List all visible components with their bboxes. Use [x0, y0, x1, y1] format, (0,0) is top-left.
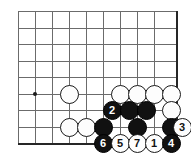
grid-line-vertical: [120, 11, 121, 143]
grid-line-vertical: [154, 11, 155, 143]
black-move-4: 4: [162, 134, 181, 153]
grid-line-vertical: [18, 11, 19, 143]
white-stone-j: [77, 118, 96, 137]
white-stone-i: [60, 118, 79, 137]
grid-line-horizontal: [18, 28, 176, 29]
hoshi-left-icon: [33, 92, 37, 96]
black-move-2: 2: [103, 101, 122, 120]
move-number-label: 4: [168, 138, 174, 149]
grid-line-horizontal: [18, 61, 176, 62]
white-move-7: 7: [128, 134, 147, 153]
white-move-3: 3: [173, 118, 192, 137]
black-stone-f: [120, 101, 139, 120]
move-number-label: 2: [109, 105, 115, 116]
black-move-6: 6: [94, 134, 113, 153]
grid-line-horizontal: [18, 77, 176, 78]
grid-line-vertical: [52, 11, 53, 143]
white-move-1: 1: [145, 134, 164, 153]
move-number-label: 1: [151, 138, 157, 149]
move-number-label: 3: [179, 122, 185, 133]
white-move-5: 5: [111, 134, 130, 153]
grid-line-vertical: [35, 11, 36, 143]
move-number-label: 5: [117, 138, 123, 149]
white-stone-h: [162, 101, 181, 120]
move-number-label: 6: [100, 138, 106, 149]
white-stone-a: [60, 85, 79, 104]
black-stone-g: [137, 101, 156, 120]
move-number-label: 7: [134, 138, 140, 149]
go-board-diagram: 2365714: [0, 0, 191, 158]
grid-line-horizontal: [18, 44, 176, 45]
grid-line-horizontal: [18, 11, 176, 12]
